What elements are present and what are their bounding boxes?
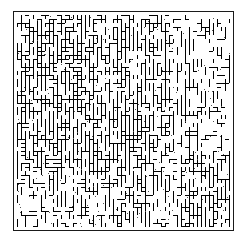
maze-pattern-canvas [17, 15, 230, 227]
maze-frame-border [13, 11, 234, 231]
figure-root: Dense square field of short vertical and… [0, 0, 246, 250]
